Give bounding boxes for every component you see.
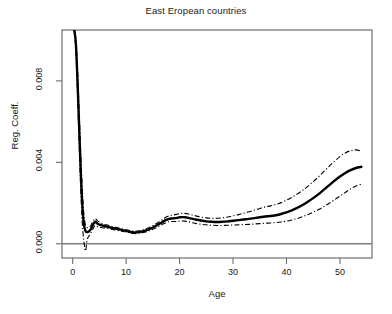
regression-coefficient-curve (74, 30, 361, 232)
regression-coefficient-chart: East Eropean countries Reg. Coeff. Age 0… (0, 0, 392, 314)
y-tick-label: 0.008 (34, 62, 44, 96)
x-tick-label: 40 (274, 267, 298, 277)
x-tick-label: 30 (221, 267, 245, 277)
x-tick-label: 10 (114, 267, 138, 277)
y-axis-ticks (56, 81, 62, 244)
upper-confidence-band (74, 30, 361, 231)
x-axis-ticks (73, 258, 340, 264)
x-tick-label: 0 (61, 267, 85, 277)
x-tick-label: 20 (168, 267, 192, 277)
x-tick-label: 50 (328, 267, 352, 277)
plot-frame (62, 30, 372, 258)
y-tick-label: 0.000 (34, 225, 44, 259)
y-tick-label: 0.004 (34, 143, 44, 177)
